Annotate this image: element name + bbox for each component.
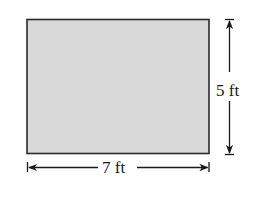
shaded-rectangle [27,20,209,154]
height-label: 5 ft [215,80,240,101]
width-label: 7 ft [99,159,128,176]
rectangle-diagram [0,0,253,221]
